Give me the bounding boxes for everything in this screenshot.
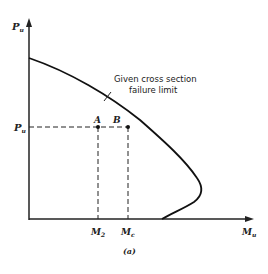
curve-annotation-line1: Given cross section (114, 74, 197, 84)
point-b (126, 125, 130, 129)
y-axis-label: Pu (11, 21, 25, 33)
x-axis-arrow-icon (245, 216, 254, 222)
annotation-leader (104, 92, 111, 101)
m2-label: M2 (90, 227, 105, 238)
point-a (96, 125, 100, 129)
figure-caption: (a) (123, 246, 136, 256)
curve-annotation-line2: failure limit (129, 85, 178, 95)
interaction-diagram: Pu Pu A B M2 Mc Mu Given cross section f… (0, 0, 268, 274)
y-axis-arrow-icon (26, 18, 32, 27)
x-axis-label: Mu (241, 227, 257, 238)
point-b-label: B (112, 115, 121, 125)
load-level-label: Pu (13, 122, 27, 134)
point-a-label: A (93, 115, 101, 125)
mc-label: Mc (120, 227, 135, 238)
